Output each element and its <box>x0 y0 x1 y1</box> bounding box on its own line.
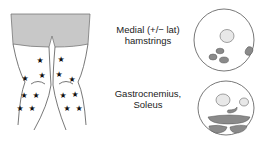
shorts <box>11 14 90 47</box>
calf-label: Gastrocnemius, Soleus <box>108 88 188 110</box>
medial-hamstring-2 <box>209 54 217 60</box>
hamstrings-label-line2: hamstrings <box>108 35 188 46</box>
calf-label-line2: Soleus <box>108 99 188 110</box>
femur <box>220 30 234 43</box>
fibula <box>240 98 249 106</box>
star-icon: ★ <box>59 91 66 100</box>
star-icon: ★ <box>71 90 78 99</box>
star-icon: ★ <box>75 104 82 113</box>
star-icon: ★ <box>63 104 70 113</box>
medial-hamstring-1 <box>216 48 224 54</box>
thigh-cross-section <box>194 9 254 71</box>
hamstrings-label: Medial (+/− lat) hamstrings <box>108 24 188 46</box>
calf-label-line1: Gastrocnemius, <box>108 88 188 99</box>
star-icon: ★ <box>16 104 23 113</box>
legs-outline <box>13 44 88 130</box>
hamstrings-label-line1: Medial (+/− lat) <box>108 24 188 35</box>
star-icon: ★ <box>36 56 43 65</box>
star-icon: ★ <box>57 55 64 64</box>
star-icon: ★ <box>55 70 62 79</box>
calf-cross-section <box>198 81 254 135</box>
star-icon: ★ <box>20 91 27 100</box>
star-icon: ★ <box>21 74 28 83</box>
star-icon: ★ <box>68 75 75 84</box>
leg-diagram: ★★★★★★★★★★★★★★ <box>0 0 256 141</box>
gastrocnemius-lateral <box>230 125 247 133</box>
star-icon: ★ <box>32 91 39 100</box>
medial-hamstring-3 <box>220 57 229 63</box>
tibia <box>216 94 230 106</box>
star-icon: ★ <box>38 71 45 80</box>
star-icon: ★ <box>28 104 35 113</box>
